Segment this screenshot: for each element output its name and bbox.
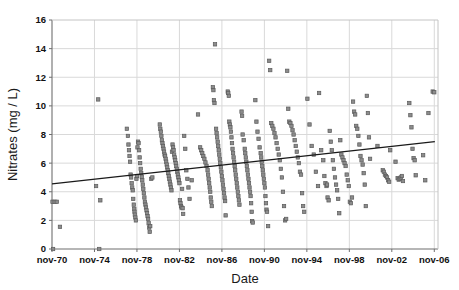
- data-point: [221, 179, 224, 182]
- data-point: [264, 202, 267, 205]
- data-point: [356, 127, 359, 130]
- data-point: [141, 179, 144, 182]
- data-point: [433, 91, 436, 94]
- data-point: [181, 207, 184, 210]
- data-point: [190, 179, 193, 182]
- data-point: [281, 190, 284, 193]
- data-point: [149, 224, 152, 227]
- data-point: [236, 190, 239, 193]
- data-point: [413, 159, 416, 162]
- data-point: [332, 167, 335, 170]
- data-point: [349, 202, 352, 205]
- y-tick-label: 6: [41, 158, 46, 169]
- data-point: [237, 199, 240, 202]
- data-point: [314, 170, 317, 173]
- data-point: [214, 127, 217, 130]
- data-point: [126, 134, 129, 137]
- data-point: [208, 186, 211, 189]
- data-point: [367, 136, 370, 139]
- data-point: [220, 170, 223, 173]
- y-tick-label: 0: [41, 243, 46, 254]
- data-point: [218, 153, 221, 156]
- data-point: [347, 184, 350, 187]
- data-point: [128, 154, 131, 157]
- data-point: [137, 149, 140, 152]
- data-point: [235, 181, 238, 184]
- data-point: [230, 136, 233, 139]
- data-point: [258, 146, 261, 149]
- data-point: [238, 203, 241, 206]
- data-point: [187, 186, 190, 189]
- data-point: [409, 113, 412, 116]
- data-point: [275, 141, 278, 144]
- data-point: [235, 177, 238, 180]
- data-point: [362, 171, 365, 174]
- data-point: [139, 167, 142, 170]
- data-point: [248, 186, 251, 189]
- data-point: [306, 97, 309, 100]
- data-point: [210, 204, 213, 207]
- nitrates-scatter-chart: 0246810121416nov-70nov-74nov-78nov-82nov…: [0, 0, 459, 290]
- data-point: [229, 126, 232, 129]
- data-point: [229, 130, 232, 133]
- data-point: [181, 212, 184, 215]
- data-point: [151, 176, 154, 179]
- data-point: [319, 149, 322, 152]
- data-point: [339, 139, 342, 142]
- data-point: [368, 157, 371, 160]
- data-point: [244, 156, 247, 159]
- y-tick-label: 14: [35, 43, 46, 54]
- data-point: [158, 123, 161, 126]
- y-axis-title: Nitrates (mg / L): [5, 88, 20, 181]
- data-point: [212, 88, 215, 91]
- data-point: [266, 224, 269, 227]
- data-point: [219, 166, 222, 169]
- x-tick-label: nov-98: [334, 254, 365, 265]
- x-tick-label: nov-86: [207, 254, 238, 265]
- data-point: [350, 196, 353, 199]
- data-point: [394, 160, 397, 163]
- data-point: [303, 210, 306, 213]
- data-point: [287, 107, 290, 110]
- data-point: [196, 113, 199, 116]
- data-point: [241, 133, 244, 136]
- data-point: [387, 180, 390, 183]
- data-point: [259, 156, 262, 159]
- data-point: [98, 247, 101, 250]
- data-point: [207, 181, 210, 184]
- data-point: [245, 164, 248, 167]
- data-point: [361, 163, 364, 166]
- data-point: [146, 217, 149, 220]
- x-tick-label: nov-70: [37, 254, 68, 265]
- data-point: [231, 147, 234, 150]
- data-point: [233, 169, 236, 172]
- data-point: [308, 123, 311, 126]
- data-point: [178, 181, 181, 184]
- data-point: [295, 150, 298, 153]
- data-point: [138, 161, 141, 164]
- data-point: [297, 161, 300, 164]
- data-point: [130, 181, 133, 184]
- data-point: [301, 204, 304, 207]
- data-point: [254, 98, 257, 101]
- data-point: [240, 114, 243, 117]
- y-tick-label: 16: [35, 14, 46, 25]
- data-point: [330, 149, 333, 152]
- data-point: [267, 59, 270, 62]
- data-point: [232, 160, 235, 163]
- data-point: [269, 68, 272, 71]
- data-point: [247, 177, 250, 180]
- data-point: [421, 154, 424, 157]
- data-point: [142, 191, 145, 194]
- data-point: [172, 149, 175, 152]
- data-point: [256, 130, 259, 133]
- x-tick-label: nov-02: [376, 254, 407, 265]
- data-point: [58, 225, 61, 228]
- data-point: [310, 144, 313, 147]
- data-point: [170, 189, 173, 192]
- data-point: [323, 174, 326, 177]
- data-point: [274, 136, 277, 139]
- data-point: [290, 124, 293, 127]
- data-point: [329, 140, 332, 143]
- data-point: [233, 164, 236, 167]
